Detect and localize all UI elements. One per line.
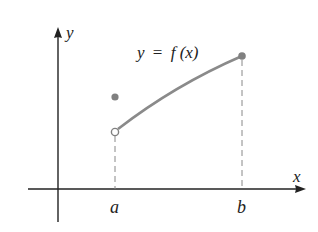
filled-point-f-of-b bbox=[238, 52, 246, 60]
open-point-left-limit bbox=[111, 128, 118, 135]
eq-f: f bbox=[171, 43, 178, 62]
y-axis-label: y bbox=[64, 23, 74, 42]
function-graph: y x a b y = f (x) bbox=[0, 0, 318, 232]
y-axis-arrow-icon bbox=[54, 27, 62, 38]
function-curve bbox=[118, 56, 242, 129]
tick-label-b: b bbox=[237, 197, 246, 217]
eq-equals: = bbox=[153, 43, 163, 62]
tick-label-a: a bbox=[110, 197, 119, 217]
x-axis-label: x bbox=[292, 167, 301, 186]
eq-y: y bbox=[135, 43, 145, 62]
eq-arg: (x) bbox=[180, 43, 199, 62]
curve-equation-label: y = f (x) bbox=[135, 43, 199, 62]
filled-point-f-of-a bbox=[111, 93, 118, 100]
x-axis-arrow-icon bbox=[295, 185, 306, 193]
diagram-canvas: y x a b y = f (x) bbox=[0, 0, 318, 232]
